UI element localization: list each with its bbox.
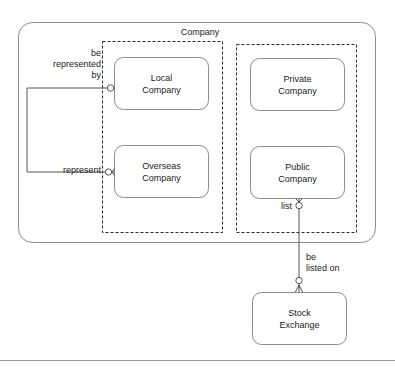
rel-be-represented-by-line1: be bbox=[18, 48, 101, 59]
local-company-entity[interactable]: Local Company bbox=[114, 57, 209, 110]
er-diagram: Company Local Company Overseas Company P… bbox=[0, 0, 395, 371]
private-company-entity[interactable]: Private Company bbox=[250, 58, 345, 111]
cardinality-zero-local-icon bbox=[107, 85, 113, 91]
cardinality-zero-public-icon bbox=[296, 202, 302, 208]
rel-be-represented-by-line2: represented bbox=[18, 59, 101, 70]
relationship-label-be-represented-by: be represented by bbox=[18, 48, 101, 81]
rel-be-listed-on-line2: listed on bbox=[306, 263, 386, 274]
local-company-label-line1: Local bbox=[114, 72, 209, 84]
stock-exchange-label-line1: Stock bbox=[252, 307, 347, 319]
rel-represent-line1: represent bbox=[20, 165, 101, 176]
cardinality-many-public-icon bbox=[296, 199, 303, 203]
private-company-label-line2: Company bbox=[250, 85, 345, 97]
overseas-company-label-line2: Company bbox=[114, 172, 209, 184]
overseas-company-entity[interactable]: Overseas Company bbox=[114, 145, 209, 198]
rel-list-line1: list bbox=[254, 201, 292, 212]
cardinality-zero-stock-icon bbox=[296, 277, 302, 283]
cardinality-zero-overseas-icon bbox=[105, 169, 111, 175]
public-company-entity[interactable]: Public Company bbox=[250, 146, 345, 199]
private-company-label-line1: Private bbox=[250, 73, 345, 85]
connector-recursive-path bbox=[27, 88, 107, 172]
relationship-label-list: list bbox=[254, 201, 292, 212]
relationship-label-represent: represent bbox=[20, 165, 101, 176]
overseas-company-label-line1: Overseas bbox=[114, 160, 209, 172]
public-company-label-line2: Company bbox=[250, 173, 345, 185]
public-company-label-line1: Public bbox=[250, 161, 345, 173]
local-company-label-line2: Company bbox=[114, 84, 209, 96]
stock-exchange-entity[interactable]: Stock Exchange bbox=[252, 292, 347, 345]
relationship-label-be-listed-on: be listed on bbox=[306, 252, 386, 274]
rel-be-listed-on-line1: be bbox=[306, 252, 386, 263]
rel-be-represented-by-line3: by bbox=[18, 70, 101, 81]
stock-exchange-label-line2: Exchange bbox=[252, 319, 347, 331]
cardinality-many-stock-icon bbox=[295, 285, 302, 292]
company-container-title: Company bbox=[160, 27, 240, 37]
